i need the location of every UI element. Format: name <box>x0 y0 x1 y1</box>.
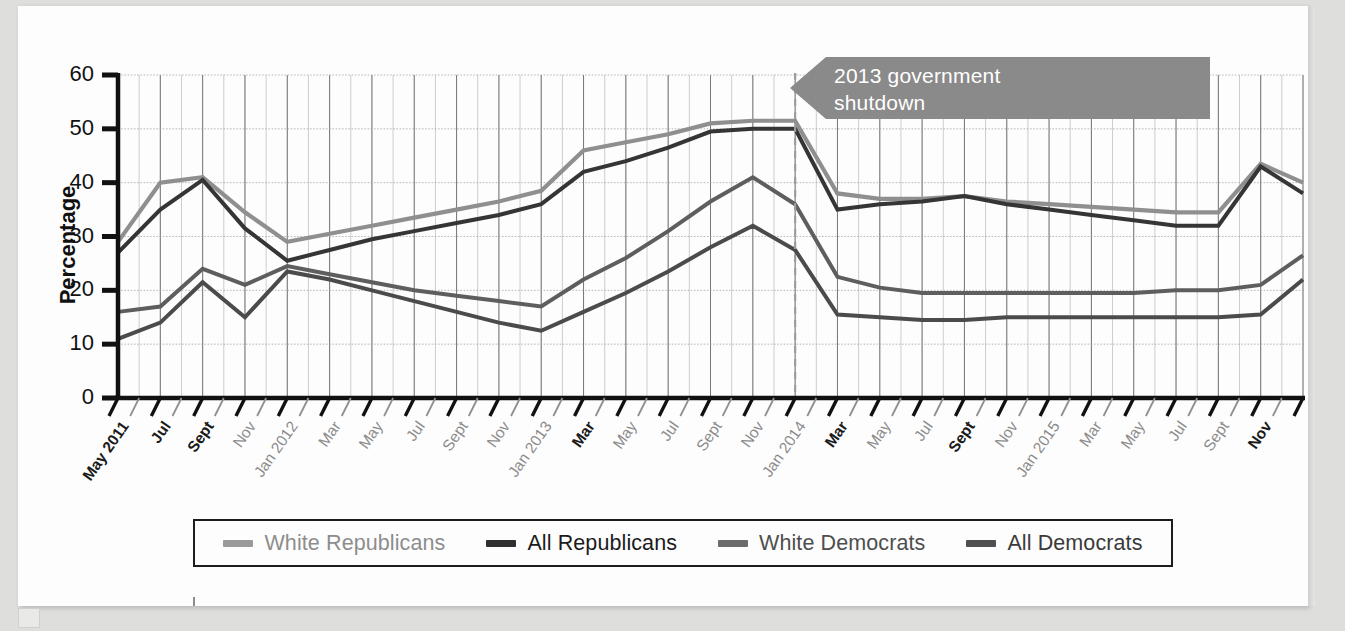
x-axis-tick <box>998 398 1007 416</box>
x-axis-tick <box>617 398 626 416</box>
legend-swatch-icon <box>223 540 253 547</box>
legend-swatch-icon <box>486 540 516 547</box>
x-axis-tick <box>638 398 647 416</box>
x-axis-tick <box>977 398 986 416</box>
x-axis-tick <box>257 398 266 416</box>
x-axis-tick <box>1252 398 1261 416</box>
x-axis-tick <box>1146 398 1155 416</box>
x-axis-tick <box>1125 398 1134 416</box>
x-axis-tick <box>469 398 478 416</box>
legend-item[interactable]: White Republicans <box>223 531 445 556</box>
callout-text: 2013 government shutdown <box>834 62 1194 116</box>
x-axis-tick <box>1188 398 1197 416</box>
x-axis-tick <box>680 398 689 416</box>
legend-item[interactable]: White Democrats <box>718 531 925 556</box>
x-axis-tick <box>384 398 393 416</box>
legend-label: White Republicans <box>264 531 445 556</box>
x-axis-tick <box>1209 398 1218 416</box>
chart-legend: White RepublicansAll RepublicansWhite De… <box>193 519 1173 567</box>
x-axis-tick <box>1061 398 1070 416</box>
x-axis-tick <box>511 398 520 416</box>
y-axis-tick-label: 60 <box>48 61 94 87</box>
x-axis-tick <box>744 398 753 416</box>
x-axis-tick <box>955 398 964 416</box>
legend-label: White Democrats <box>759 531 925 556</box>
x-axis-tick <box>448 398 457 416</box>
x-axis-tick <box>1294 398 1303 416</box>
x-axis-tick <box>532 398 541 416</box>
x-axis-tick <box>405 398 414 416</box>
callout-line-2: shutdown <box>834 89 1194 116</box>
legend-item[interactable]: All Democrats <box>966 531 1142 556</box>
x-axis-tick <box>151 398 160 416</box>
x-axis-tick <box>1104 398 1113 416</box>
callout-line-1: 2013 government <box>834 62 1194 89</box>
x-axis-tick <box>490 398 499 416</box>
legend-label: All Republicans <box>527 531 677 556</box>
x-axis-tick <box>765 398 774 416</box>
legend-item[interactable]: All Republicans <box>486 531 677 556</box>
x-axis-tick <box>130 398 139 416</box>
x-axis-tick <box>934 398 943 416</box>
x-axis-tick <box>553 398 562 416</box>
x-axis-tick <box>659 398 668 416</box>
x-axis-tick <box>1167 398 1176 416</box>
legend-swatch-icon <box>966 540 996 547</box>
x-axis-tick <box>702 398 711 416</box>
x-axis-tick <box>1273 398 1282 416</box>
legend-label: All Democrats <box>1007 531 1142 556</box>
y-axis-tick-label: 0 <box>48 384 94 410</box>
x-axis-tick <box>786 398 795 416</box>
x-axis-tick <box>1082 398 1091 416</box>
y-axis-tick-label: 30 <box>48 223 94 249</box>
x-axis-tick <box>426 398 435 416</box>
y-axis-tick-label: 20 <box>48 276 94 302</box>
x-axis-tick <box>1019 398 1028 416</box>
x-axis-tick <box>236 398 245 416</box>
x-axis-tick <box>299 398 308 416</box>
x-axis-tick <box>871 398 880 416</box>
y-axis-ticks <box>102 75 118 398</box>
x-axis-tick <box>363 398 372 416</box>
y-axis-tick-label: 50 <box>48 115 94 141</box>
x-axis-tick <box>1231 398 1240 416</box>
x-axis-tick <box>194 398 203 416</box>
x-axis-tick <box>321 398 330 416</box>
x-axis-tick <box>892 398 901 416</box>
legend-swatch-icon <box>718 540 748 547</box>
shutdown-callout: 2013 government shutdown <box>790 57 1210 119</box>
x-axis-tick <box>575 398 584 416</box>
x-axis-tick <box>828 398 837 416</box>
x-axis-tick <box>807 398 816 416</box>
x-axis-tick <box>913 398 922 416</box>
x-axis-tick <box>342 398 351 416</box>
x-axis-tick <box>109 398 118 416</box>
line-chart: Percentage 0102030405060 May 2011JulSept… <box>0 0 1345 631</box>
y-axis-tick-label: 10 <box>48 330 94 356</box>
x-axis-tick <box>596 398 605 416</box>
x-axis-tick <box>278 398 287 416</box>
x-axis-tick <box>172 398 181 416</box>
x-axis-ticks <box>109 398 1303 416</box>
x-axis-tick <box>215 398 224 416</box>
x-axis-tick <box>723 398 732 416</box>
x-axis-tick <box>850 398 859 416</box>
y-axis-tick-label: 40 <box>48 169 94 195</box>
x-axis-tick <box>1040 398 1049 416</box>
